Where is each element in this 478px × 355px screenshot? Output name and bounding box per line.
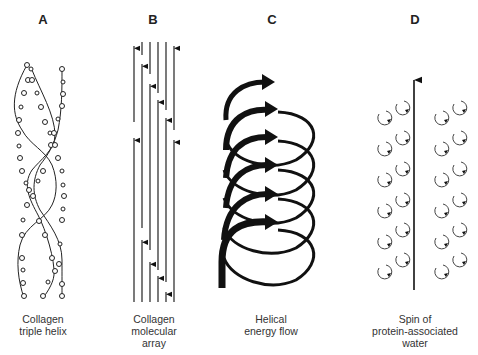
helix-beads: [16, 63, 67, 299]
caption-line: array: [84, 337, 224, 349]
caption-line: protein-associated: [345, 325, 478, 337]
panel-c-caption: Helical energy flow: [201, 313, 341, 337]
caption-line: water: [345, 337, 478, 349]
caption-line: energy flow: [201, 325, 341, 337]
water-spin-icon: [378, 80, 467, 290]
panel-d-caption: Spin of protein-associated water: [345, 313, 478, 349]
helical-flow-icon: [222, 74, 314, 288]
caption-line: Spin of: [345, 313, 478, 325]
diagram-canvas: [0, 0, 478, 355]
molecular-array-icon: [134, 42, 174, 302]
caption-line: Helical: [201, 313, 341, 325]
